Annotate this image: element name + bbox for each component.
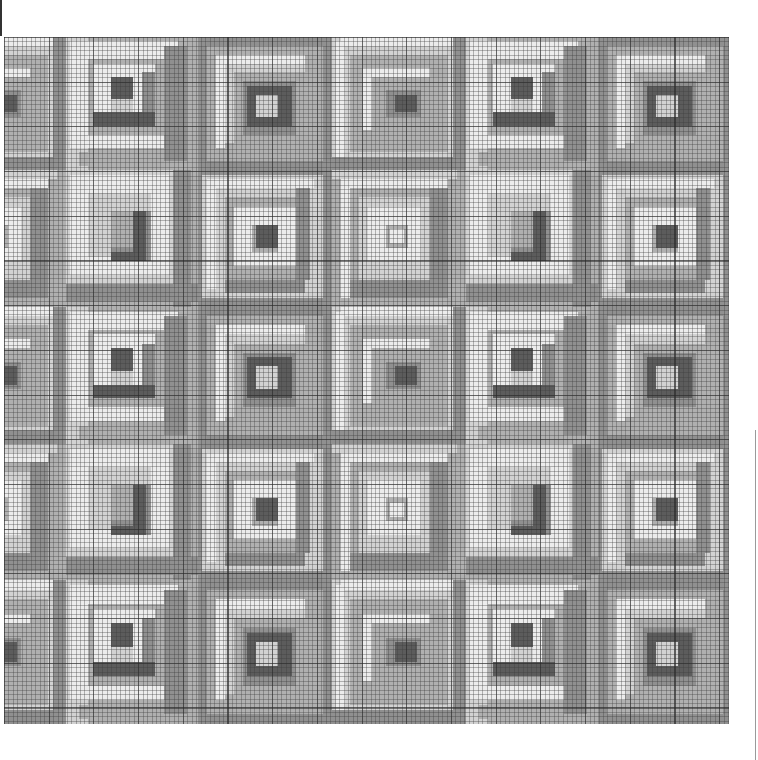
patch-dark (4, 642, 17, 661)
quilt-block-b1 (198, 307, 333, 445)
patch-dark (4, 366, 17, 384)
patch-midDark (66, 557, 200, 575)
patch-white (390, 229, 403, 243)
quilt-block-c1 (332, 580, 467, 724)
quilt-block-c1 (332, 37, 467, 171)
quilt-block-b1 (598, 580, 729, 724)
patch-midDark (350, 553, 448, 571)
quilt-block-b1 (598, 37, 729, 171)
patch-midDark (30, 462, 48, 562)
patch-white (616, 55, 705, 64)
patch-midDark (4, 553, 48, 571)
quilt-block-c1 (4, 307, 67, 445)
patch-midDark (296, 462, 309, 553)
quilt-block-c2 (332, 170, 467, 308)
quilt-block-a2 (66, 170, 201, 308)
patch-dark (111, 623, 133, 647)
patch-white (341, 179, 350, 298)
patch-dark (656, 498, 678, 521)
patch-white (4, 453, 48, 462)
patch-midDark (296, 188, 309, 279)
patch-midDark (4, 280, 48, 298)
patch-dark (111, 348, 133, 371)
patch-dark (111, 526, 147, 535)
patch-white (336, 312, 345, 431)
patch-light (111, 371, 133, 385)
patch-midDark (164, 316, 186, 435)
patch-midDark (696, 462, 709, 553)
patch-dark (256, 498, 278, 521)
patch-white (341, 453, 448, 462)
patch-light (111, 99, 133, 112)
patch-white (341, 453, 350, 571)
patch-midDark (53, 37, 66, 170)
patch-white (341, 179, 448, 188)
patch-white (216, 599, 225, 700)
patch-midDark (225, 553, 305, 567)
patch-light (511, 371, 533, 385)
patch-midDark (564, 46, 586, 161)
quilt-block-b1 (198, 37, 333, 171)
quilt-block-b2 (198, 170, 333, 308)
patch-midDark (453, 37, 466, 170)
patch-midDark (30, 188, 48, 288)
patch-light (4, 444, 57, 453)
patch-white (216, 55, 225, 148)
patch-white (341, 307, 457, 316)
patch-light (256, 642, 278, 666)
patch-mid (4, 498, 8, 521)
patch-dark (511, 348, 533, 371)
patch-light (4, 170, 57, 179)
patch-light (656, 95, 678, 117)
quilt-block-a1 (66, 37, 201, 171)
page-left-rule (0, 0, 2, 36)
patch-midDark (696, 188, 709, 279)
patch-white (341, 37, 457, 46)
patch-white (4, 37, 57, 46)
patch-white (216, 325, 225, 421)
patch-white (390, 503, 403, 517)
patch-white (336, 585, 345, 710)
patch-white (341, 580, 457, 590)
quilt-block-c2 (4, 444, 67, 581)
patch-mid (4, 225, 8, 248)
patch-dark (93, 112, 156, 125)
patch-light (256, 95, 278, 117)
patch-white (607, 453, 714, 462)
patch-midDark (4, 710, 66, 724)
patch-white (4, 179, 48, 188)
patch-midDark (350, 280, 448, 298)
patch-midDark (164, 46, 186, 161)
quilt-block-a2 (466, 170, 601, 308)
patch-midDark (466, 557, 600, 575)
patch-light (511, 647, 533, 661)
patch-midDark (164, 590, 186, 715)
patch-midDark (53, 307, 66, 444)
patch-dark (111, 77, 133, 99)
patch-midDark (66, 284, 200, 302)
patch-dark (493, 112, 556, 125)
patch-white (336, 41, 345, 156)
patch-midDark (430, 462, 448, 562)
patch-light (332, 444, 457, 453)
patch-dark (395, 642, 417, 661)
patch-midDark (430, 188, 448, 288)
patch-white (4, 580, 57, 590)
quilt-block-a1 (66, 580, 201, 724)
patch-white (607, 179, 714, 188)
patch-white (207, 179, 216, 289)
patch-dark (4, 95, 17, 113)
patch-dark (256, 225, 278, 248)
patch-midDark (225, 280, 305, 294)
patch-white (607, 453, 616, 562)
quilt-block-a1 (466, 580, 601, 724)
quilt-grid-chart (4, 37, 729, 724)
patch-midDark (625, 553, 705, 567)
quilt-block-b2 (598, 444, 729, 581)
patch-white (207, 453, 314, 462)
patch-dark (93, 662, 156, 676)
patch-light (111, 647, 133, 661)
quilt-block-a1 (66, 307, 201, 445)
patch-midDark (332, 710, 466, 724)
patch-midDark (453, 307, 466, 444)
